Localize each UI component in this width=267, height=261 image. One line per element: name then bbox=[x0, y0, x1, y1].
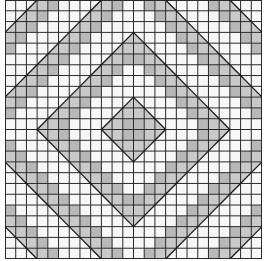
shaded-cell bbox=[123, 130, 134, 141]
shaded-cell bbox=[48, 119, 59, 130]
shaded-cell bbox=[230, 22, 241, 33]
shaded-cell bbox=[101, 173, 112, 184]
shaded-cell bbox=[176, 32, 187, 43]
shaded-cell bbox=[101, 183, 112, 194]
shaded-cell bbox=[166, 237, 177, 248]
shaded-cell bbox=[187, 108, 198, 119]
shaded-cell bbox=[187, 97, 198, 108]
shaded-cell bbox=[59, 130, 70, 141]
shaded-cell bbox=[187, 43, 198, 54]
shaded-cell bbox=[241, 216, 252, 227]
shaded-cell bbox=[198, 140, 209, 151]
shaded-cell bbox=[176, 86, 187, 97]
shaded-cell bbox=[69, 140, 80, 151]
shaded-cell bbox=[187, 32, 198, 43]
shaded-cell bbox=[230, 237, 241, 248]
shaded-cell bbox=[251, 43, 262, 54]
shaded-cell bbox=[241, 32, 252, 43]
shaded-cell bbox=[144, 65, 155, 76]
shaded-cell bbox=[230, 76, 241, 87]
shaded-cell bbox=[26, 76, 37, 87]
shaded-cell bbox=[48, 65, 59, 76]
shaded-cell bbox=[198, 194, 209, 205]
shaded-cell bbox=[219, 248, 230, 259]
shaded-cell bbox=[134, 140, 145, 151]
shaded-cell bbox=[5, 43, 16, 54]
shaded-cell bbox=[198, 205, 209, 216]
shaded-cell bbox=[37, 11, 48, 22]
shaded-cell bbox=[5, 140, 16, 151]
shaded-cell bbox=[219, 76, 230, 87]
shaded-cell bbox=[241, 151, 252, 162]
shaded-cell bbox=[251, 205, 262, 216]
shaded-cell bbox=[5, 32, 16, 43]
shaded-cell bbox=[166, 86, 177, 97]
shaded-cell bbox=[241, 227, 252, 238]
shaded-cell bbox=[5, 216, 16, 227]
shaded-cell bbox=[101, 11, 112, 22]
shaded-cell bbox=[112, 248, 123, 259]
shaded-cell bbox=[59, 108, 70, 119]
shaded-cell bbox=[166, 227, 177, 238]
shaded-cell bbox=[80, 22, 91, 33]
shaded-cell bbox=[230, 173, 241, 184]
shaded-cell bbox=[208, 183, 219, 194]
shaded-cell bbox=[251, 151, 262, 162]
shaded-cell bbox=[251, 108, 262, 119]
shaded-cell bbox=[16, 97, 27, 108]
shaded-cell bbox=[112, 119, 123, 130]
shaded-cell bbox=[144, 183, 155, 194]
shaded-cell bbox=[59, 140, 70, 151]
shaded-cell bbox=[241, 22, 252, 33]
shaded-cell bbox=[59, 43, 70, 54]
shaded-cell bbox=[80, 97, 91, 108]
shaded-cell bbox=[208, 248, 219, 259]
shaded-cell bbox=[69, 108, 80, 119]
shaded-cell bbox=[37, 0, 48, 11]
shaded-cell bbox=[123, 205, 134, 216]
shaded-cell bbox=[123, 119, 134, 130]
shaded-cell bbox=[144, 194, 155, 205]
shaded-cell bbox=[155, 237, 166, 248]
shaded-cell bbox=[208, 54, 219, 65]
shaded-cell bbox=[166, 22, 177, 33]
shaded-cell bbox=[219, 0, 230, 11]
shaded-cell bbox=[176, 97, 187, 108]
shaded-cell bbox=[48, 194, 59, 205]
shaded-cell bbox=[208, 119, 219, 130]
shaded-cell bbox=[37, 183, 48, 194]
shaded-cell bbox=[16, 227, 27, 238]
shaded-cell bbox=[91, 86, 102, 97]
shaded-cell bbox=[155, 173, 166, 184]
shaded-cell bbox=[91, 162, 102, 173]
shaded-cell bbox=[16, 151, 27, 162]
shaded-cell bbox=[112, 65, 123, 76]
shaded-cell bbox=[101, 0, 112, 11]
shaded-cell bbox=[230, 227, 241, 238]
shaded-cell bbox=[155, 248, 166, 259]
shaded-cell bbox=[166, 76, 177, 87]
shaded-cell bbox=[198, 43, 209, 54]
shaded-cell bbox=[91, 227, 102, 238]
shaded-cell bbox=[69, 32, 80, 43]
shaded-cell bbox=[155, 183, 166, 194]
shaded-cell bbox=[241, 162, 252, 173]
shaded-cell bbox=[123, 140, 134, 151]
shaded-cell bbox=[219, 65, 230, 76]
shaded-cell bbox=[219, 11, 230, 22]
shaded-cell bbox=[101, 237, 112, 248]
shaded-cell bbox=[69, 216, 80, 227]
shaded-cell bbox=[134, 54, 145, 65]
shaded-cell bbox=[134, 43, 145, 54]
shaded-cell bbox=[37, 76, 48, 87]
shaded-cell bbox=[48, 0, 59, 11]
shaded-cell bbox=[176, 227, 187, 238]
shaded-cell bbox=[26, 237, 37, 248]
shaded-cell bbox=[123, 108, 134, 119]
shaded-cell bbox=[219, 183, 230, 194]
shaded-cell bbox=[69, 205, 80, 216]
shaded-cell bbox=[208, 0, 219, 11]
shaded-cell bbox=[198, 108, 209, 119]
shaded-cell bbox=[176, 151, 187, 162]
shaded-cell bbox=[230, 162, 241, 173]
